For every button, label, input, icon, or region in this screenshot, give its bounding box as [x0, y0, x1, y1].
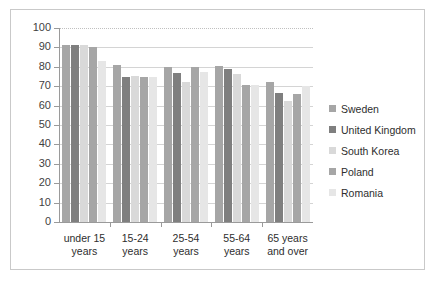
bar	[71, 45, 79, 223]
bar	[293, 94, 301, 222]
bar	[140, 77, 148, 223]
bar	[215, 66, 223, 222]
category-tick	[110, 222, 111, 227]
gridline-0	[59, 222, 313, 223]
bar	[284, 101, 292, 222]
y-tick-label-50: 50	[17, 119, 51, 130]
category-label: 25-54 years	[161, 232, 212, 258]
legend-swatch-icon	[329, 105, 336, 112]
bar	[173, 73, 181, 222]
chart-frame: 1009080706050403020100 under 15 years15-…	[10, 9, 425, 270]
bar	[182, 82, 190, 222]
bar	[131, 76, 139, 222]
chart-legend: SwedenUnited KingdomSouth KoreaPolandRom…	[329, 98, 423, 203]
legend-label: Romania	[341, 187, 383, 199]
bar	[233, 74, 241, 222]
bar-group	[211, 28, 262, 222]
category-tick	[161, 222, 162, 227]
bar	[62, 45, 70, 223]
category-label: under 15 years	[59, 232, 110, 258]
bar	[191, 67, 199, 222]
legend-item[interactable]: United Kingdom	[329, 119, 423, 140]
category-label: 55-64 years	[211, 232, 262, 258]
bar	[242, 85, 250, 222]
y-tick-label-0: 0	[17, 216, 51, 227]
bar	[113, 65, 121, 222]
legend-label: South Korea	[341, 145, 399, 157]
bar	[224, 69, 232, 222]
bar-group	[262, 28, 313, 222]
bar	[89, 47, 97, 222]
y-tick-label-80: 80	[17, 61, 51, 72]
category-label: 15-24 years	[110, 232, 161, 258]
legend-item[interactable]: South Korea	[329, 140, 423, 161]
legend-swatch-icon	[329, 147, 336, 154]
y-tick-label-10: 10	[17, 197, 51, 208]
category-label: 65 years and over	[262, 232, 313, 258]
legend-item[interactable]: Sweden	[329, 98, 423, 119]
plot-area	[59, 28, 313, 222]
bar-group	[59, 28, 110, 222]
bar	[302, 86, 310, 222]
y-tick-mark-0	[54, 222, 59, 223]
legend-swatch-icon	[329, 168, 336, 175]
bar	[164, 67, 172, 222]
bar-group	[161, 28, 212, 222]
y-tick-label-90: 90	[17, 41, 51, 52]
bar	[275, 93, 283, 222]
legend-swatch-icon	[329, 189, 336, 196]
category-tick	[211, 222, 212, 227]
legend-label: United Kingdom	[341, 124, 416, 136]
legend-label: Sweden	[341, 103, 379, 115]
bar	[98, 61, 106, 222]
legend-item[interactable]: Romania	[329, 182, 423, 203]
y-tick-label-30: 30	[17, 158, 51, 169]
bar	[80, 45, 88, 223]
bar	[251, 85, 259, 222]
bar	[122, 77, 130, 223]
bar	[149, 77, 157, 222]
legend-swatch-icon	[329, 126, 336, 133]
legend-label: Poland	[341, 166, 374, 178]
y-tick-label-60: 60	[17, 100, 51, 111]
y-tick-label-40: 40	[17, 138, 51, 149]
bar	[266, 82, 274, 222]
bar	[200, 72, 208, 222]
y-tick-label-100: 100	[17, 22, 51, 33]
legend-item[interactable]: Poland	[329, 161, 423, 182]
bar-group	[110, 28, 161, 222]
category-tick	[262, 222, 263, 227]
y-tick-label-70: 70	[17, 80, 51, 91]
y-tick-label-20: 20	[17, 177, 51, 188]
